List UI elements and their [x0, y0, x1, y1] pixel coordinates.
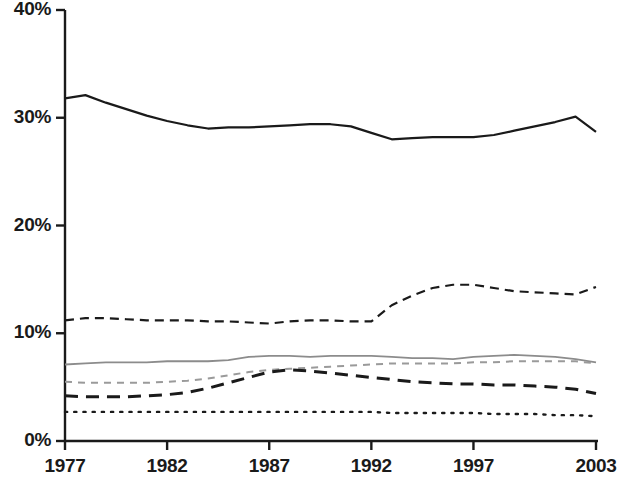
series-6-dotted-black	[65, 412, 596, 416]
y-axis-tick-label: 0%	[24, 429, 51, 451]
y-axis-tick-label: 10%	[14, 321, 51, 343]
x-axis-tick-label: 2003	[556, 455, 621, 477]
series-4-dotted-gray	[65, 361, 596, 383]
y-axis-ticks	[56, 10, 65, 441]
data-series-group	[65, 95, 596, 416]
y-axis-tick-label: 40%	[14, 0, 51, 20]
x-axis-ticks	[65, 441, 596, 450]
series-1-solid-black	[65, 95, 596, 139]
y-axis-tick-label: 20%	[14, 214, 51, 236]
series-3-solid-gray	[65, 355, 596, 365]
x-axis-tick-label: 1977	[25, 455, 105, 477]
x-axis-tick-label: 1982	[127, 455, 207, 477]
x-axis-tick-label: 1992	[331, 455, 411, 477]
series-2-dashed-black	[65, 285, 596, 324]
x-axis-tick-label: 1997	[433, 455, 513, 477]
y-axis-tick-label: 30%	[14, 106, 51, 128]
x-axis-tick-label: 1987	[229, 455, 309, 477]
